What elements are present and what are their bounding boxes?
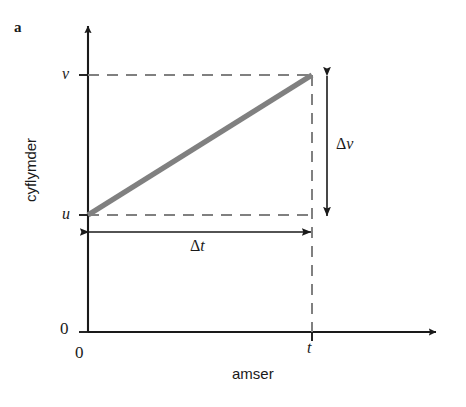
velocity-time-graph-figure: a cyflymder amser v u 0 0 t Δt Δv <box>0 0 466 407</box>
y-axis-label: cyflymder <box>20 110 40 230</box>
delta-v-variable: v <box>346 135 353 152</box>
y-tick-label-u: u <box>62 206 70 222</box>
x-tick-label-t: t <box>307 340 311 356</box>
delta-v-label: Δv <box>336 136 353 152</box>
y-axis-label-text: cyflymder <box>23 138 38 202</box>
x-tick-label-origin: 0 <box>75 344 84 361</box>
y-tick-label-origin: 0 <box>60 320 69 337</box>
y-tick-label-v: v <box>62 66 69 82</box>
panel-label: a <box>14 20 22 35</box>
graph-canvas <box>0 0 466 407</box>
delta-t-variable: t <box>200 237 204 254</box>
delta-symbol: Δ <box>190 237 200 254</box>
x-axis-label: amser <box>232 366 274 381</box>
delta-symbol: Δ <box>336 135 346 152</box>
delta-t-label: Δt <box>190 238 205 254</box>
velocity-trend-line <box>88 75 312 215</box>
